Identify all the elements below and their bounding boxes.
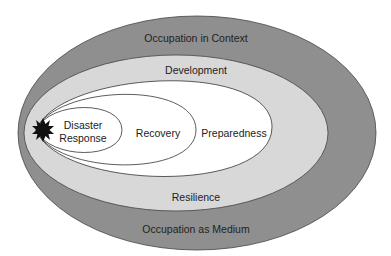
label-occupation-in-context: Occupation in Context	[144, 32, 247, 44]
label-recovery: Recovery	[136, 127, 181, 139]
label-response: Response	[59, 132, 106, 144]
label-resilience: Resilience	[172, 191, 221, 203]
label-disaster: Disaster	[64, 119, 103, 131]
label-preparedness: Preparedness	[201, 127, 266, 139]
label-development: Development	[165, 64, 227, 76]
occupation-disaster-diagram: Occupation in Context Development Disast…	[0, 0, 391, 256]
label-occupation-as-medium: Occupation as Medium	[142, 223, 250, 235]
